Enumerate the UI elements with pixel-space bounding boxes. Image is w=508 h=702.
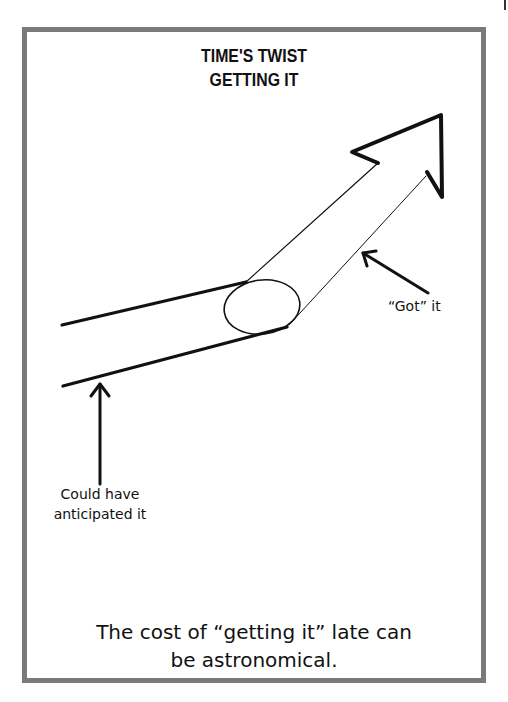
could-have-pointer-icon	[91, 384, 109, 484]
caption-line-2: be astronomical.	[0, 646, 508, 674]
got-it-label: “Got” it	[388, 298, 441, 314]
caption: The cost of “getting it” late can be ast…	[0, 618, 508, 674]
rising-upper-line	[246, 163, 378, 282]
tube-lower-line	[63, 327, 287, 386]
could-have-label: Could have anticipated it	[40, 484, 160, 524]
rising-arrow-icon	[62, 115, 442, 386]
diagram-art	[0, 0, 508, 702]
caption-line-1: The cost of “getting it” late can	[0, 618, 508, 646]
arrowhead	[352, 115, 442, 197]
got-it-pointer-icon	[363, 251, 428, 293]
tube-upper-line	[62, 282, 246, 325]
